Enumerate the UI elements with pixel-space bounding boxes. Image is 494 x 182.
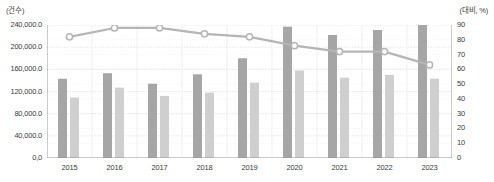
- secondary-y-axis-unit-label: (대비, %): [460, 4, 488, 15]
- secondary-y-axis-tick-0: 0: [457, 153, 483, 162]
- bar-series-light-bar-2019: [250, 83, 259, 158]
- x-axis-tick-2017: 2017: [137, 163, 182, 172]
- y-axis-tick-240000: 240,000.0: [0, 20, 42, 29]
- bar-series-dark-bar-2017: [148, 84, 157, 158]
- y-axis-tick-200000: 200,000.0: [0, 42, 42, 51]
- plot-area: [47, 25, 452, 158]
- bar-series-dark-bar-2015: [58, 79, 67, 158]
- y-axis-unit-label: (건수): [6, 4, 24, 15]
- bar-series-light-bar-2021: [340, 78, 349, 158]
- x-axis-tick-2018: 2018: [182, 163, 227, 172]
- line-marker-2022: [381, 49, 387, 55]
- bar-series-dark-bar-2019: [238, 58, 247, 158]
- bar-series-dark-bar-2018: [193, 74, 202, 158]
- bar-series-dark-bar-2016: [103, 73, 112, 158]
- bar-series-light-bar-2016: [115, 88, 124, 158]
- secondary-y-axis-tick-60: 60: [457, 64, 483, 73]
- y-axis-tick-40000: 40,000.0: [0, 131, 42, 140]
- secondary-y-axis-tick-20: 20: [457, 123, 483, 132]
- bar-series-light-bar-2018: [205, 93, 214, 158]
- bar-series-light-bar-2022: [385, 75, 394, 158]
- secondary-y-axis-tick-30: 30: [457, 109, 483, 118]
- line-marker-2016: [111, 25, 117, 31]
- line-marker-2023: [426, 62, 432, 68]
- y-axis-tick-0: 0,0: [0, 153, 42, 162]
- bar-series-dark-bar-2023: [418, 25, 427, 158]
- bar-series-light-bar-2017: [160, 96, 169, 158]
- x-axis-tick-2020: 2020: [272, 163, 317, 172]
- secondary-y-axis-tick-40: 40: [457, 94, 483, 103]
- bars-layer: [58, 25, 439, 158]
- line-marker-2015: [66, 34, 72, 40]
- bar-series-dark-bar-2021: [328, 35, 337, 158]
- bar-series-light-bar-2023: [430, 79, 439, 158]
- x-axis-tick-2021: 2021: [317, 163, 362, 172]
- line-marker-2019: [246, 34, 252, 40]
- line-marker-2021: [336, 49, 342, 55]
- bar-series-dark-bar-2020: [283, 27, 292, 158]
- line-marker-2017: [156, 25, 162, 31]
- x-axis-tick-2015: 2015: [47, 163, 92, 172]
- secondary-y-axis-tick-10: 10: [457, 138, 483, 147]
- chart-container: (건수) (대비, %) 0,040,000.080,000.0120,000.…: [0, 0, 494, 182]
- bar-series-light-bar-2020: [295, 70, 304, 158]
- x-axis-tick-2023: 2023: [407, 163, 452, 172]
- y-axis-tick-160000: 160,000.0: [0, 64, 42, 73]
- bar-series-dark-bar-2022: [373, 30, 382, 158]
- x-axis-tick-2016: 2016: [92, 163, 137, 172]
- line-marker-2018: [201, 31, 207, 37]
- secondary-y-axis-tick-80: 80: [457, 35, 483, 44]
- secondary-y-axis-tick-50: 50: [457, 79, 483, 88]
- x-axis-tick-2022: 2022: [362, 163, 407, 172]
- secondary-y-axis-tick-90: 90: [457, 20, 483, 29]
- y-axis-tick-80000: 80,000.0: [0, 109, 42, 118]
- y-axis-tick-120000: 120,000.0: [0, 87, 42, 96]
- bar-series-light-bar-2015: [70, 98, 79, 158]
- chart-svg: [47, 25, 452, 158]
- secondary-y-axis-tick-70: 70: [457, 50, 483, 59]
- x-axis-tick-2019: 2019: [227, 163, 272, 172]
- line-marker-2020: [291, 43, 297, 49]
